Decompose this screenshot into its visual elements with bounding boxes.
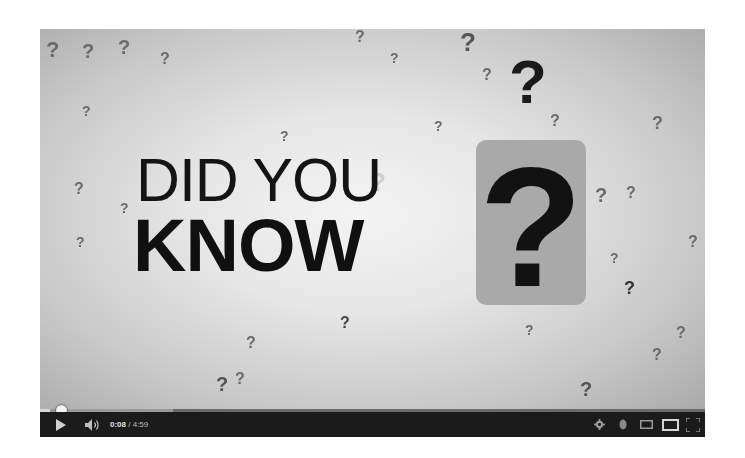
background-question-mark: ? bbox=[434, 119, 443, 133]
fullscreen-icon bbox=[686, 418, 700, 432]
background-question-mark: ? bbox=[82, 104, 91, 118]
background-question-mark: ? bbox=[340, 315, 350, 331]
background-question-mark: ? bbox=[246, 335, 256, 351]
question-mark-glyph: ? bbox=[476, 142, 586, 312]
small-player-icon bbox=[640, 420, 653, 429]
background-question-mark: ? bbox=[595, 185, 607, 205]
background-question-mark: ? bbox=[460, 29, 476, 55]
background-question-mark: ? bbox=[76, 235, 85, 249]
title-line-did-you: DID YOU bbox=[136, 149, 381, 211]
time-display: 0:08 / 4:59 bbox=[110, 412, 148, 437]
play-button[interactable] bbox=[54, 412, 68, 437]
background-question-mark: ? bbox=[120, 201, 129, 215]
background-question-mark: ? bbox=[676, 325, 686, 341]
background-question-mark: ? bbox=[216, 374, 228, 394]
info-icon bbox=[619, 419, 627, 430]
background-question-mark: ? bbox=[652, 114, 663, 132]
fullscreen-button[interactable] bbox=[685, 412, 701, 437]
background-question-mark: ? bbox=[626, 185, 636, 201]
background-question-mark: ? bbox=[688, 234, 698, 250]
background-question-mark: ? bbox=[280, 129, 289, 143]
question-mark-box: ? bbox=[476, 140, 586, 305]
background-question-mark: ? bbox=[74, 181, 84, 197]
current-time: 0:08 bbox=[110, 420, 126, 429]
video-player[interactable]: ? ? ? ? ? ? ? ? ? ? ? ? ? ? ? ? ? ? ? ? … bbox=[40, 29, 705, 437]
background-question-mark: ? bbox=[580, 379, 592, 399]
background-question-mark: ? bbox=[624, 279, 635, 297]
title-line-know: KNOW bbox=[133, 209, 363, 283]
background-question-mark: ? bbox=[46, 39, 59, 61]
background-question-mark: ? bbox=[355, 29, 365, 45]
background-question-mark: ? bbox=[525, 323, 534, 337]
volume-button[interactable] bbox=[84, 412, 102, 437]
background-question-mark: ? bbox=[610, 251, 619, 265]
background-question-mark: ? bbox=[390, 51, 399, 65]
background-question-mark: ? bbox=[82, 41, 94, 61]
background-question-mark: ? bbox=[652, 347, 662, 363]
background-question-mark: ? bbox=[118, 37, 130, 57]
theater-mode-button[interactable] bbox=[660, 412, 680, 437]
background-question-mark: ? bbox=[550, 113, 560, 129]
small-player-button[interactable] bbox=[638, 412, 654, 437]
settings-button[interactable] bbox=[592, 412, 606, 437]
volume-icon bbox=[85, 419, 101, 431]
play-icon bbox=[56, 419, 66, 431]
video-frame[interactable]: ? ? ? ? ? ? ? ? ? ? ? ? ? ? ? ? ? ? ? ? … bbox=[40, 29, 705, 412]
theater-mode-icon bbox=[662, 419, 679, 431]
annotations-button[interactable] bbox=[617, 412, 629, 437]
time-separator: / bbox=[126, 420, 133, 429]
duration: 4:59 bbox=[133, 420, 149, 429]
background-question-mark: ? bbox=[160, 51, 170, 67]
gear-icon bbox=[594, 419, 605, 430]
background-question-mark: ? bbox=[482, 67, 492, 83]
control-bar: 0:08 / 4:59 bbox=[40, 412, 705, 437]
background-question-mark: ? bbox=[235, 371, 245, 387]
large-question-mark: ? bbox=[509, 51, 547, 113]
